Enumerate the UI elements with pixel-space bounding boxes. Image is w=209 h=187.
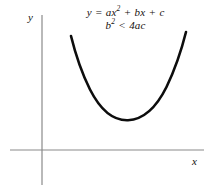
parabola-curve — [71, 32, 186, 120]
equation-line-1: y = ax2 + bx + c — [58, 6, 193, 19]
plus-sign-1: + — [120, 6, 134, 18]
constant-term: c — [159, 6, 164, 18]
linear-term: bx — [135, 6, 146, 18]
equation-annotation: y = ax2 + bx + c b2 < 4ac — [58, 6, 193, 31]
discriminant-rhs: 4ac — [129, 19, 145, 31]
y-axis-label: y — [28, 11, 33, 23]
equation-lhs: y — [87, 6, 92, 18]
parabola-figure: y = ax2 + bx + c b2 < 4ac y x — [0, 0, 209, 187]
plus-sign-2: + — [145, 6, 159, 18]
equals-sign: = — [92, 6, 106, 18]
equation-line-2: b2 < 4ac — [58, 19, 193, 32]
less-than-sign: < — [115, 19, 129, 31]
x-axis-label: x — [192, 155, 197, 167]
